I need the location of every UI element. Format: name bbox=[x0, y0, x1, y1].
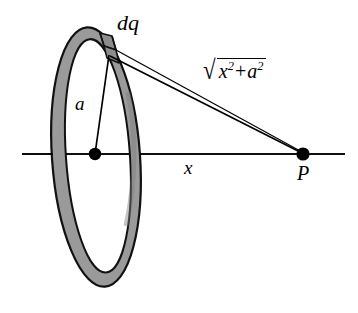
label-axis-distance-x: x bbox=[184, 158, 192, 177]
label-hypotenuse: √ x2+a2 bbox=[203, 58, 266, 81]
label-radius-a: a bbox=[75, 94, 85, 113]
term1-exponent: 2 bbox=[228, 59, 234, 73]
term1-base: x bbox=[219, 60, 228, 82]
ring-charge-diagram bbox=[0, 0, 358, 313]
figure-root: dq a x P √ x2+a2 bbox=[0, 0, 358, 313]
field-point-dot bbox=[296, 147, 309, 160]
radical-sign-icon: √ bbox=[203, 59, 216, 81]
label-point-p: P bbox=[297, 163, 309, 183]
radicand: x2+a2 bbox=[217, 58, 267, 81]
label-dq: dq bbox=[117, 12, 139, 34]
ring-center-dot bbox=[89, 148, 101, 160]
operator: + bbox=[234, 60, 247, 82]
term2-exponent: 2 bbox=[257, 59, 263, 73]
term2-base: a bbox=[247, 60, 257, 82]
